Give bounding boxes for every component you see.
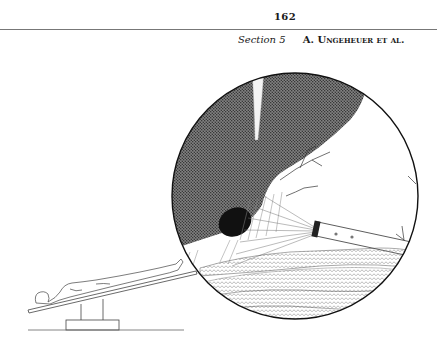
laparoscopic-inset [160, 60, 430, 340]
figure-illustration [0, 0, 437, 347]
bowel-loops [160, 268, 430, 341]
patient-table-drawing [28, 259, 197, 330]
